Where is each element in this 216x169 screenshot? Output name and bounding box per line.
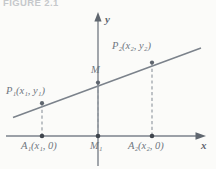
point-m — [96, 81, 100, 85]
label-m: M — [91, 65, 100, 76]
y-axis-arrowhead — [94, 12, 101, 22]
point-p1 — [40, 101, 44, 105]
label-p2: P₂(x₂, y₂) — [112, 41, 151, 52]
label-m1: M₁ — [90, 141, 102, 152]
x-axis-label: x — [201, 140, 207, 151]
label-p1: P₁(x₁, y₁) — [6, 86, 45, 97]
point-a2 — [150, 134, 155, 139]
figure-container: FIGURE 2.1 y x P₁(x₁, y₁) P₂(x₂, y₂) M M… — [0, 0, 216, 169]
point-m1 — [96, 134, 101, 139]
label-a1: A₁(x₁, 0) — [21, 141, 57, 152]
y-axis-label: y — [105, 14, 110, 25]
line-through-p1-p2 — [13, 48, 201, 118]
point-p2 — [150, 61, 154, 65]
point-a1 — [40, 134, 45, 139]
label-a2: A₂(x₂, 0) — [128, 141, 164, 152]
